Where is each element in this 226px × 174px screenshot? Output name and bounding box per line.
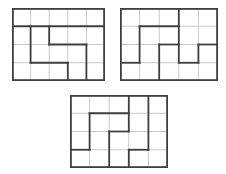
puzzle-grid-top-left bbox=[12, 8, 105, 81]
pentomino-puzzle-figure bbox=[0, 0, 226, 174]
puzzle-grid-bottom-center bbox=[70, 95, 168, 168]
puzzle-grid-top-right bbox=[120, 8, 218, 81]
